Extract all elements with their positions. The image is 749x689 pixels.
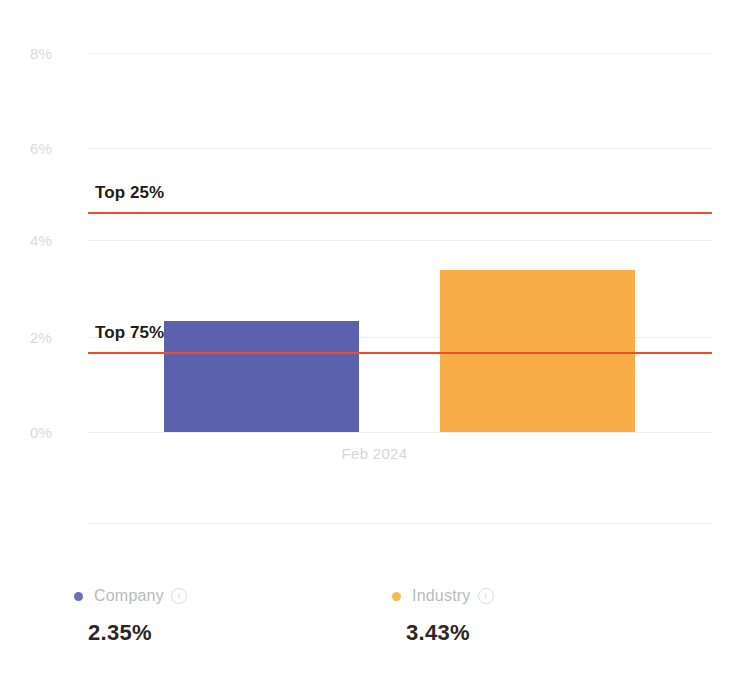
ytick-label-8pct: 8%	[30, 46, 80, 61]
plot-area: 8% 6% 4% 2% 0% Top 25% Top 75% Feb 2024	[0, 0, 749, 560]
bar-company[interactable]	[164, 321, 359, 432]
gridline-8pct	[88, 53, 712, 54]
legend-item-company[interactable]: Company i 2.35%	[60, 585, 380, 646]
gridline-4pct	[88, 240, 712, 241]
reference-label-top75: Top 75%	[95, 323, 164, 343]
ytick-label-0pct: 0%	[30, 425, 80, 440]
ytick-label-4pct: 4%	[30, 233, 80, 248]
legend-dot-company-icon	[74, 592, 83, 601]
legend-value-industry: 3.43%	[378, 620, 698, 646]
reference-label-top25: Top 25%	[95, 183, 164, 203]
gridline-lower	[88, 523, 712, 524]
legend-row-industry: Industry i	[378, 585, 698, 607]
info-icon-industry[interactable]: i	[478, 588, 494, 604]
info-icon-company[interactable]: i	[171, 588, 187, 604]
legend-value-company: 2.35%	[60, 620, 380, 646]
xaxis-label-feb-2024: Feb 2024	[0, 445, 749, 462]
legend-item-industry[interactable]: Industry i 3.43%	[378, 585, 698, 646]
legend-row-company: Company i	[60, 585, 380, 607]
legend-dot-industry-icon	[392, 592, 401, 601]
legend-label-industry: Industry	[412, 587, 471, 605]
gridline-6pct	[88, 148, 712, 149]
ytick-label-6pct: 6%	[30, 141, 80, 156]
reference-line-top25	[88, 212, 712, 214]
gridline-0pct-baseline	[88, 432, 712, 433]
chart-legend: Company i 2.35% Industry i 3.43%	[0, 585, 749, 665]
bar-industry[interactable]	[440, 270, 635, 432]
reference-line-top75	[88, 352, 712, 354]
ytick-label-2pct: 2%	[30, 330, 80, 345]
chart-canvas: 8% 6% 4% 2% 0% Top 25% Top 75% Feb 2024 …	[0, 0, 749, 689]
legend-label-company: Company	[94, 587, 164, 605]
